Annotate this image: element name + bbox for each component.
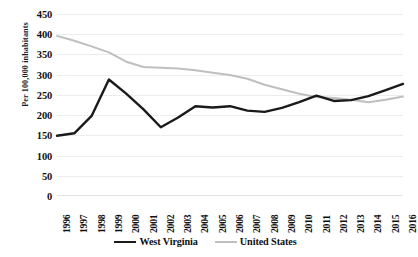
series-container [57, 14, 403, 196]
x-axis-tick-label: 2010 [303, 215, 314, 233]
x-axis-tick-label: 2009 [286, 215, 297, 233]
x-axis-tick-label: 2013 [355, 215, 366, 233]
x-axis-tick-label: 2015 [390, 215, 401, 233]
x-axis-tick-label: 2004 [199, 215, 210, 233]
y-axis-tick-label: 400 [0, 29, 52, 40]
x-axis-tick-labels: 1996199719981999200020012002200320042005… [57, 197, 403, 235]
legend-label: West Virginia [139, 236, 197, 247]
x-axis-tick-label: 2003 [182, 215, 193, 233]
x-axis-tick-label: 2006 [234, 215, 245, 233]
series-line [57, 80, 403, 136]
x-axis-tick-label: 2011 [321, 215, 332, 233]
y-axis-tick-labels: 450400350300250200150100500 [0, 0, 52, 257]
x-axis-tick-label: 2005 [217, 215, 228, 233]
series-line [57, 36, 403, 102]
x-axis-tick-label: 2008 [269, 215, 280, 233]
x-axis-tick-label: 2002 [165, 215, 176, 233]
x-axis-tick-label: 2007 [251, 215, 262, 233]
y-axis-tick-label: 0 [0, 191, 52, 202]
chart-legend: West VirginiaUnited States [0, 236, 411, 247]
y-axis-tick-label: 100 [0, 150, 52, 161]
y-axis-tick-label: 450 [0, 9, 52, 20]
y-axis-tick-label: 300 [0, 69, 52, 80]
legend-line-icon [114, 241, 136, 243]
plot-area [57, 14, 403, 196]
y-axis-tick-label: 350 [0, 49, 52, 60]
y-axis-tick-label: 50 [0, 170, 52, 181]
x-axis-tick-label: 1997 [78, 215, 89, 233]
x-axis-tick-label: 2000 [130, 215, 141, 233]
legend-item[interactable]: West Virginia [114, 236, 197, 247]
y-axis-tick-label: 250 [0, 89, 52, 100]
x-axis-tick-label: 2014 [372, 215, 383, 233]
y-axis-tick-label: 150 [0, 130, 52, 141]
x-axis-tick-label: 1998 [96, 215, 107, 233]
x-axis-tick-label: 2001 [148, 215, 159, 233]
legend-item[interactable]: United States [215, 236, 297, 247]
legend-line-icon [215, 241, 237, 243]
x-axis-tick-label: 2012 [338, 215, 349, 233]
legend-label: United States [240, 236, 297, 247]
x-axis-tick-label: 2016 [407, 215, 418, 233]
x-axis-tick-label: 1999 [113, 215, 124, 233]
x-axis-tick-label: 1996 [61, 215, 72, 233]
y-axis-tick-label: 200 [0, 110, 52, 121]
